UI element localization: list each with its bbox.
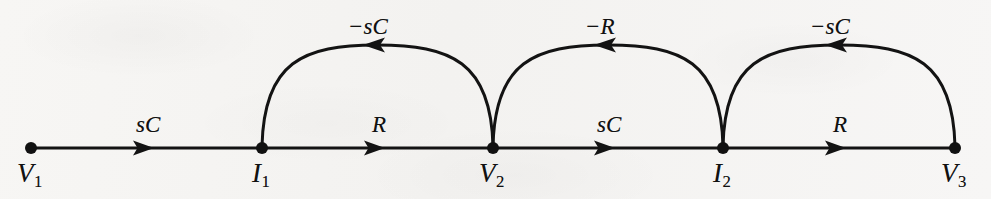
node-dot-V3[interactable] <box>949 142 961 154</box>
node-label-I2: I2 <box>713 160 731 191</box>
node-label-base: V <box>479 158 496 188</box>
node-label-subscript: 1 <box>34 172 43 191</box>
edge-label-R-I2-V3: R <box>833 113 847 136</box>
arc-label-text: −sC <box>348 14 388 39</box>
node-label-subscript: 3 <box>958 172 967 191</box>
node-dot-I2[interactable] <box>717 142 729 154</box>
node-dot-V2[interactable] <box>487 142 499 154</box>
arc-label-text: −sC <box>810 14 850 39</box>
arc-label-negative-sC-V3-I2: −sC <box>810 15 850 38</box>
node-label-base: V <box>941 158 958 188</box>
node-label-V3: V3 <box>941 160 966 191</box>
edge-label-sC-V2-I2: sC <box>597 113 621 136</box>
node-label-I1: I1 <box>252 160 270 191</box>
node-label-V2: V2 <box>479 160 504 191</box>
arc-label-text: −R <box>585 14 615 39</box>
node-dot-I1[interactable] <box>256 142 268 154</box>
arc-label-negative-sC-V2-I1: −sC <box>348 15 388 38</box>
edge-label-text: sC <box>136 112 160 137</box>
signal-flow-graph-figure: sC R sC R −sC −R −sC V1 I1 V2 I2 V3 <box>0 0 991 199</box>
node-label-subscript: 1 <box>261 172 270 191</box>
edge-label-text: R <box>833 112 847 137</box>
node-label-base: I <box>252 158 261 188</box>
node-label-V1: V1 <box>17 160 42 191</box>
edge-label-text: R <box>372 112 386 137</box>
node-label-subscript: 2 <box>722 172 731 191</box>
edge-label-sC-V1-I1: sC <box>136 113 160 136</box>
edge-label-R-I1-V2: R <box>372 113 386 136</box>
arc-label-negative-R-I2-V2: −R <box>585 15 615 38</box>
node-label-base: I <box>713 158 722 188</box>
node-dot-V1[interactable] <box>25 142 37 154</box>
node-label-base: V <box>17 158 34 188</box>
edge-label-text: sC <box>597 112 621 137</box>
node-label-subscript: 2 <box>496 172 505 191</box>
